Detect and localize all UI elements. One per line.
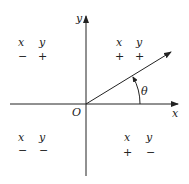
angle-arc xyxy=(133,77,140,104)
q3-y-header: y xyxy=(38,131,46,144)
quadrant-i-signs: x y + + xyxy=(115,36,144,63)
q3-y-sign: − xyxy=(39,144,48,157)
q3-x-sign: − xyxy=(18,144,27,157)
q1-y-header: y xyxy=(135,36,143,49)
q4-x-sign: + xyxy=(123,146,132,159)
quadrant-iv-signs: x y + − xyxy=(123,131,155,159)
terminal-ray xyxy=(86,52,171,104)
q2-y-sign: + xyxy=(38,50,47,63)
x-axis-label: x xyxy=(172,107,179,120)
q2-y-header: y xyxy=(38,36,46,49)
quadrant-ii-signs: x y − + xyxy=(18,36,47,63)
y-axis-label: y xyxy=(75,12,83,25)
origin-label: O xyxy=(72,106,81,119)
q4-y-sign: − xyxy=(146,146,155,159)
angle-theta-label: θ xyxy=(141,85,148,98)
q4-y-header: y xyxy=(145,131,153,144)
q1-y-sign: + xyxy=(135,50,144,63)
q4-x-header: x xyxy=(124,131,131,144)
diagram-svg: x y O θ x y − + x y + + x y − − x y + xyxy=(0,0,189,184)
q2-x-sign: − xyxy=(18,50,27,63)
quadrant-diagram: x y O θ x y − + x y + + x y − − x y + xyxy=(0,0,189,184)
q2-x-header: x xyxy=(18,36,25,49)
q3-x-header: x xyxy=(18,131,25,144)
quadrant-iii-signs: x y − − xyxy=(18,131,48,157)
q1-x-sign: + xyxy=(115,50,124,63)
q1-x-header: x xyxy=(116,36,123,49)
